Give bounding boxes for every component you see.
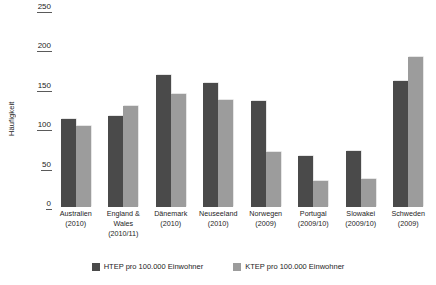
bar-group [290, 10, 338, 207]
x-axis-label-line: Neuseeland [195, 209, 243, 219]
bar-group [147, 10, 195, 207]
y-axis-tick-label: 50 [41, 160, 52, 171]
x-axis-label-line: Schweden [385, 209, 433, 219]
bar-ktep [361, 179, 376, 207]
x-axis-category-label: Neuseeland(2010) [195, 209, 243, 229]
x-axis-category-label: Norwegen(2009) [242, 209, 290, 229]
x-axis-label-line: (2010) [52, 219, 100, 229]
y-axis-tick: 250 [22, 2, 52, 13]
x-axis-category-label: Portugal(2009/10) [290, 209, 338, 229]
x-axis-label-line: England & [100, 209, 148, 219]
bar-ktep [123, 106, 138, 207]
y-axis-title: Häufigkeit [2, 84, 20, 154]
bar-ktep [171, 94, 186, 207]
bar-group [242, 10, 290, 207]
legend-item: KTEP pro 100.000 Einwohner [233, 262, 344, 271]
bar-htep [298, 156, 313, 207]
y-axis-tick: 100 [22, 120, 52, 131]
bar-htep [61, 119, 76, 207]
y-axis-tick: 200 [22, 41, 52, 52]
x-axis-category-label: England &Wales(2010/11) [100, 209, 148, 239]
bar-ktep [266, 152, 281, 207]
bar-ktep [313, 181, 328, 207]
bar-htep [251, 101, 266, 207]
x-axis-label-line: Wales [100, 219, 148, 229]
bar-htep [346, 151, 361, 207]
bar-chart: Häufigkeit 050100150200250 Australien(20… [0, 0, 436, 285]
x-axis-label-line: Dänemark [147, 209, 195, 219]
x-axis-label-line: (2009/10) [290, 219, 338, 229]
bar-group [195, 10, 243, 207]
x-axis-label-line: (2009) [385, 219, 433, 229]
x-axis-label-line: Slowakei [337, 209, 385, 219]
y-axis-tick-label: 150 [37, 81, 52, 92]
bar-group [337, 10, 385, 207]
x-axis-label-line: Portugal [290, 209, 338, 219]
y-axis-tick-label: 250 [37, 2, 52, 13]
legend-label: HTEP pro 100.000 Einwohner [104, 262, 204, 271]
chart-legend: HTEP pro 100.000 EinwohnerKTEP pro 100.0… [0, 262, 436, 271]
x-axis-label-line: (2010/11) [100, 229, 148, 239]
x-axis-label-line: Australien [52, 209, 100, 219]
bar-group [100, 10, 148, 207]
y-axis-ticks: 050100150200250 [22, 0, 52, 285]
x-axis-label-line: (2010) [195, 219, 243, 229]
bar-ktep [76, 126, 91, 207]
x-axis-label-line: Norwegen [242, 209, 290, 219]
x-axis-category-label: Schweden(2009) [385, 209, 433, 229]
x-axis-label-line: (2009/10) [337, 219, 385, 229]
y-axis-tick: 50 [22, 160, 52, 171]
y-axis-tick-label: 100 [37, 120, 52, 131]
bar-htep [203, 83, 218, 208]
x-axis-category-label: Australien(2010) [52, 209, 100, 229]
bar-group [385, 10, 433, 207]
bar-htep [393, 81, 408, 207]
bar-ktep [218, 100, 233, 207]
plot-area [52, 10, 432, 207]
legend-swatch-icon [233, 263, 241, 271]
x-axis-category-label: Slowakei(2009/10) [337, 209, 385, 229]
y-axis-tick-label: 200 [37, 41, 52, 52]
legend-swatch-icon [92, 263, 100, 271]
bar-group [52, 10, 100, 207]
y-axis-tick: 150 [22, 81, 52, 92]
legend-label: KTEP pro 100.000 Einwohner [245, 262, 344, 271]
bar-htep [156, 75, 171, 207]
x-axis-label-line: (2009) [242, 219, 290, 229]
bar-ktep [408, 57, 423, 207]
legend-item: HTEP pro 100.000 Einwohner [92, 262, 204, 271]
x-axis-category-label: Dänemark(2010) [147, 209, 195, 229]
bar-htep [108, 116, 123, 207]
y-axis-tick: 0 [22, 199, 52, 210]
x-axis-labels: Australien(2010)England &Wales(2010/11)D… [52, 209, 432, 251]
x-axis-label-line: (2010) [147, 219, 195, 229]
